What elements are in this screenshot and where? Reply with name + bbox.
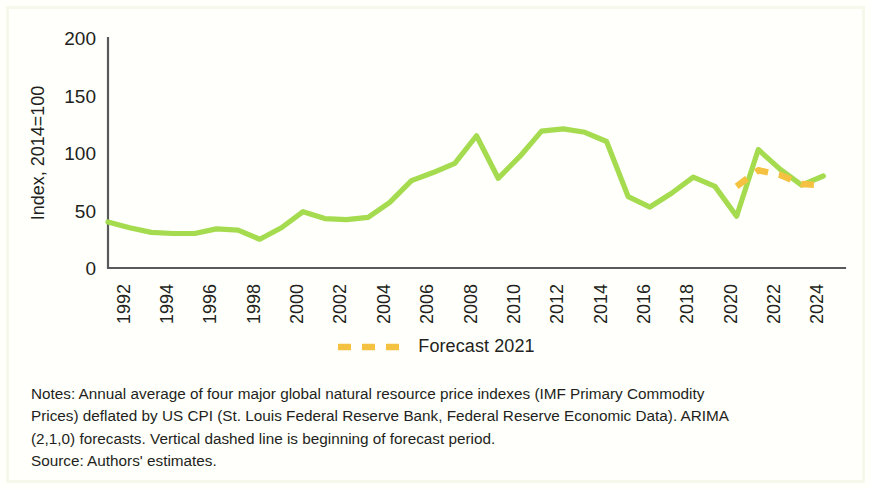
line-chart-svg: Index, 2014=100 050100150200 19921994199… <box>0 0 871 380</box>
y-tick-label: 0 <box>85 258 96 279</box>
notes-line-1: Notes: Annual average of four major glob… <box>31 383 843 405</box>
y-axis-tick-labels: 050100150200 <box>64 28 96 279</box>
chart-legend: Forecast 2021 <box>0 336 871 357</box>
notes-source-line: Source: Authors' estimates. <box>31 450 843 472</box>
x-tick-label: 2006 <box>417 284 437 324</box>
figure-container: Index, 2014=100 050100150200 19921994199… <box>0 0 871 489</box>
figure-notes: Notes: Annual average of four major glob… <box>31 383 843 473</box>
x-tick-label: 2008 <box>461 284 481 324</box>
legend-item-label: Forecast 2021 <box>418 336 534 357</box>
x-tick-label: 2010 <box>504 284 524 324</box>
x-tick-label: 1996 <box>200 284 220 324</box>
x-tick-label: 2018 <box>677 284 697 324</box>
actual-line <box>108 129 823 239</box>
x-tick-label: 2012 <box>547 284 567 324</box>
x-tick-label: 2002 <box>330 284 350 324</box>
y-tick-label: 50 <box>75 201 96 222</box>
y-axis-label-group: Index, 2014=100 <box>28 86 48 221</box>
axis-lines <box>108 38 845 268</box>
y-axis-title: Index, 2014=100 <box>28 86 48 221</box>
data-series-group <box>108 129 823 239</box>
x-tick-label: 2004 <box>374 284 394 324</box>
x-tick-label: 1998 <box>244 284 264 324</box>
notes-line-3: (2,1,0) forecasts. Vertical dashed line … <box>31 428 843 450</box>
axis-spine <box>108 38 845 268</box>
y-tick-label: 200 <box>64 28 96 49</box>
x-tick-label: 2022 <box>764 284 784 324</box>
notes-line-2: Prices) deflated by US CPI (St. Louis Fe… <box>31 405 843 427</box>
x-axis-tick-labels: 1992199419961998200020022004200620082010… <box>114 284 828 324</box>
x-tick-label: 2020 <box>721 284 741 324</box>
x-tick-label: 2016 <box>634 284 654 324</box>
x-tick-label: 2024 <box>807 284 827 324</box>
chart-plot-area: Index, 2014=100 050100150200 19921994199… <box>0 0 871 380</box>
y-tick-label: 150 <box>64 86 96 107</box>
x-tick-label: 1992 <box>114 284 134 324</box>
x-tick-label: 2014 <box>591 284 611 324</box>
y-tick-label: 100 <box>64 143 96 164</box>
x-tick-label: 1994 <box>157 284 177 324</box>
x-tick-label: 2000 <box>287 284 307 324</box>
forecast-dashed-line-swatch <box>336 340 406 354</box>
